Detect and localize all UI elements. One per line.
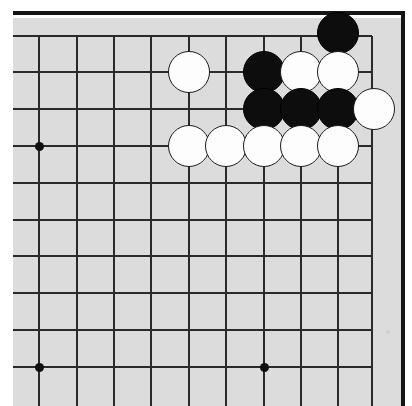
star-point-left-upper	[35, 142, 44, 151]
white-stone[interactable]	[205, 125, 247, 167]
white-stone[interactable]	[243, 125, 285, 167]
grid-line-horizontal	[13, 255, 372, 257]
white-stone[interactable]	[317, 125, 359, 167]
white-stone[interactable]	[280, 125, 322, 167]
white-stone[interactable]	[168, 51, 210, 93]
grid-line-vertical	[38, 36, 40, 406]
white-stone[interactable]	[280, 51, 322, 93]
grid-line-horizontal	[13, 329, 372, 331]
white-stone[interactable]	[317, 51, 359, 93]
grid-line-vertical	[113, 36, 115, 406]
grid-line-vertical	[150, 36, 152, 406]
black-stone[interactable]	[243, 88, 285, 130]
grid-line-horizontal	[13, 182, 372, 184]
grid-line-horizontal	[13, 366, 372, 368]
grid-line-vertical	[76, 36, 78, 406]
grid-line-horizontal	[13, 292, 372, 294]
black-stone[interactable]	[280, 88, 322, 130]
star-point-center-lower	[260, 363, 269, 372]
faint-mark	[386, 330, 390, 334]
go-board-diagram	[0, 0, 412, 406]
white-stone[interactable]	[168, 125, 210, 167]
grid-line-vertical	[225, 36, 227, 406]
star-point-left-lower	[35, 363, 44, 372]
board-edge-right	[401, 11, 405, 406]
white-stone[interactable]	[353, 88, 395, 130]
black-stone[interactable]	[317, 12, 359, 54]
grid-line-horizontal	[13, 219, 372, 221]
black-stone[interactable]	[243, 51, 285, 93]
